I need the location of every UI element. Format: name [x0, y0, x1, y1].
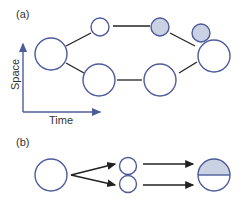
edge-a3-a7: [170, 33, 195, 46]
node-a6: [144, 64, 176, 96]
node-b1: [35, 159, 67, 191]
arrow-b1-b3: [71, 175, 115, 185]
edge-a1-a5: [66, 63, 84, 73]
node-a5: [83, 64, 115, 96]
time-axis-label: Time: [49, 114, 73, 126]
node-a7: [198, 40, 230, 72]
node-a1: [35, 38, 67, 70]
node-b2: [120, 158, 137, 175]
arrow-b1-b2: [71, 164, 115, 175]
node-b3: [120, 176, 137, 193]
panel-b-label: (b): [16, 136, 29, 148]
node-a4-shaded: [192, 24, 210, 42]
space-axis-label: Space: [9, 59, 21, 90]
edge-a1-a2: [66, 33, 91, 46]
node-a2: [91, 18, 109, 36]
node-a3-shaded: [151, 18, 169, 36]
panel-a-label: (a): [16, 8, 29, 20]
diagram: (a) Space Time (b): [0, 0, 244, 202]
edge-a6-a7: [179, 62, 197, 73]
